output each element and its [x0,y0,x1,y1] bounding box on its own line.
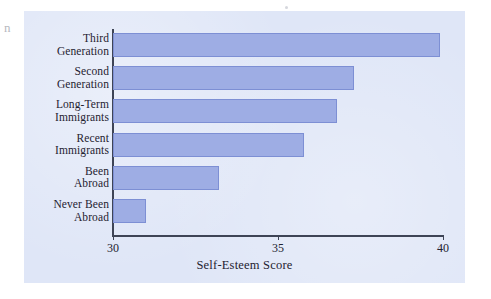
category-label-line: Second [24,65,109,78]
category-label-line: Generation [24,78,109,91]
bar-never-been-abroad [113,199,146,223]
chart-panel: ThirdGenerationSecondGenerationLong-Term… [24,11,465,283]
bar-fill [113,99,337,123]
x-tick-label: 35 [258,241,298,256]
category-label: SecondGeneration [24,65,109,90]
category-label: RecentImmigrants [24,132,109,157]
bar-second-generation [113,66,354,90]
x-tick-label: 40 [423,241,463,256]
page-margin-artifact: n [4,20,18,38]
x-tick-mark [443,235,444,240]
x-tick-mark [113,235,114,240]
category-label-line: Long-Term [24,98,109,111]
category-label-line: Been [24,165,109,178]
bar-recent-immigrants [113,133,304,157]
category-label: BeenAbroad [24,165,109,190]
scan-speck [285,6,288,9]
bar-fill [113,33,440,57]
category-label: ThirdGeneration [24,32,109,57]
bar-long-term-immigrants [113,99,337,123]
bar-been-abroad [113,166,219,190]
category-label-line: Generation [24,45,109,58]
category-label-line: Immigrants [24,111,109,124]
bar-fill [113,166,219,190]
category-label-line: Abroad [24,211,109,224]
x-tick-label: 30 [93,241,133,256]
bar-fill [113,133,304,157]
x-axis-title: Self-Esteem Score [24,258,465,273]
category-label-line: Immigrants [24,144,109,157]
bar-third-generation [113,33,440,57]
bar-fill [113,199,146,223]
category-label-line: Never Been [24,198,109,211]
bar-fill [113,66,354,90]
category-label-line: Recent [24,132,109,145]
category-label: Never BeenAbroad [24,198,109,223]
category-label: Long-TermImmigrants [24,98,109,123]
category-label-line: Abroad [24,177,109,190]
category-label-line: Third [24,32,109,45]
x-tick-mark [278,235,279,240]
